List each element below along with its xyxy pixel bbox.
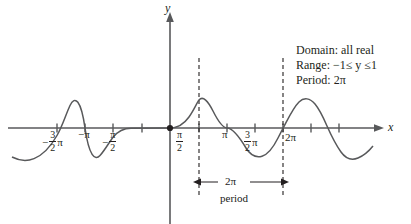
y-axis-group (166, 12, 174, 224)
function-properties-block: Domain: all real Range: −1≤ y ≤1 Period:… (296, 44, 411, 89)
period-arrow-right-head (281, 179, 289, 186)
x-tick-label-two-pi: 2π (285, 132, 296, 143)
fraction-numerator: 3 (244, 130, 251, 140)
period-text: Period: 2π (296, 74, 411, 86)
fraction-pi-over-two: π2 (109, 130, 116, 153)
x-axis-label: x (388, 121, 393, 133)
sine-plot-svg (0, 0, 411, 224)
fraction-denominator: 2 (109, 143, 116, 153)
sine-curve (12, 98, 373, 160)
x-tick-label-half-pi: π2 (175, 131, 184, 154)
domain-text: Domain: all real (296, 44, 411, 56)
fraction-numerator: π (176, 130, 183, 140)
period-caption: period (220, 192, 248, 204)
x-tick-label-neg-three-halves-pi: −32π (42, 131, 63, 154)
fraction-denominator: 2 (176, 143, 183, 153)
y-axis-label: y (165, 2, 170, 14)
x-tick-label-pi: π (222, 129, 228, 140)
fraction-denominator: 2 (244, 143, 251, 153)
period-arrow-left-head (193, 179, 201, 186)
fraction-numerator: 3 (49, 130, 56, 140)
x-tick-label-three-halves-pi: 32π (243, 131, 258, 154)
period-measure-label: 2π (225, 175, 236, 187)
fraction-three-over-two: 32 (244, 130, 251, 153)
fraction-three-over-two: 32 (49, 130, 56, 153)
fraction-numerator: π (109, 130, 116, 140)
period-measure-arrow (193, 175, 289, 189)
minus-sign: − (42, 137, 48, 148)
pi-symbol: π (252, 137, 258, 148)
minus-sign: − (102, 137, 108, 148)
sine-function-figure: y x −32π −π −π2 π2 π 32π 2π 2π period Do… (0, 0, 411, 224)
range-text: Range: −1≤ y ≤1 (296, 59, 411, 71)
pi-symbol: π (57, 137, 63, 148)
x-tick-label-neg-half-pi: −π2 (102, 131, 117, 154)
fraction-denominator: 2 (49, 143, 56, 153)
x-axis-arrowhead (374, 124, 384, 132)
x-tick-label-neg-pi: −π (78, 129, 90, 140)
origin-point-marker (167, 125, 173, 131)
fraction-pi-over-two: π2 (176, 130, 183, 153)
